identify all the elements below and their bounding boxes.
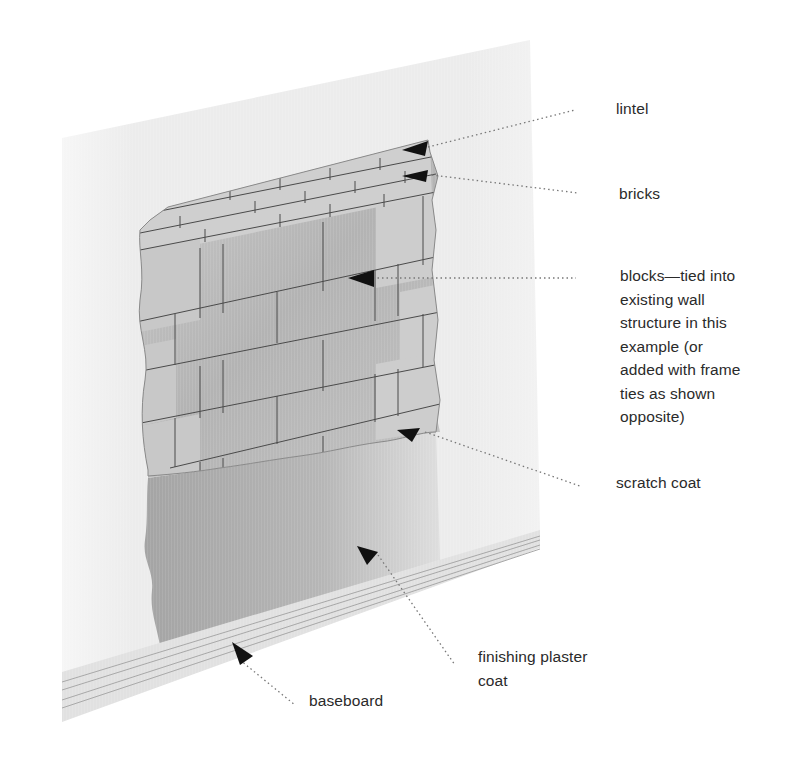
label-finishing-plaster-coat: finishing plaster coat [478,645,587,692]
label-bricks: bricks [619,182,660,206]
label-baseboard: baseboard [309,689,383,713]
label-scratch-coat: scratch coat [616,471,701,495]
label-lintel: lintel [616,97,648,121]
label-blocks: blocks—tied into existing wall structure… [620,264,741,429]
